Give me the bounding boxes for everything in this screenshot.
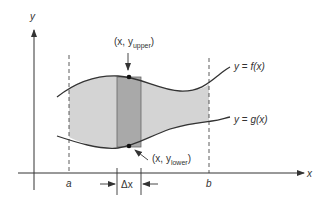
- delta-x-label: Δx: [121, 179, 133, 190]
- lower-point-label: (x, ylower): [152, 153, 191, 166]
- upper-point-dot: [127, 75, 132, 80]
- upper-point-label: (x, yupper): [114, 36, 154, 50]
- g-curve-label: y = g(x): [233, 114, 268, 125]
- b-label: b: [206, 178, 212, 189]
- y-axis-label: y: [29, 11, 36, 22]
- lower-point-dot: [127, 144, 132, 149]
- lower-point-arrow: [135, 150, 148, 160]
- area-between-curves-diagram: y x a b (x, yupper) (x, ylower) y = f(x)…: [0, 0, 325, 200]
- f-curve-label: y = f(x): [233, 61, 265, 72]
- a-label: a: [66, 178, 72, 189]
- x-axis-label: x: [306, 168, 313, 179]
- representative-strip: [117, 77, 141, 147]
